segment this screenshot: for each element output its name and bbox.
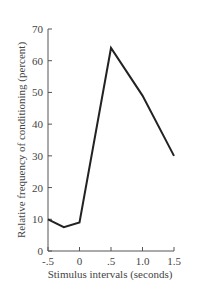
- y-tick-label: 50: [32, 86, 44, 98]
- y-tick-label: 10: [32, 213, 44, 225]
- ticks: 010203040506070-.50.51.01.5: [32, 23, 181, 267]
- y-tick-label: 30: [32, 150, 44, 162]
- y-tick-label: 60: [32, 55, 44, 67]
- axes: [48, 29, 174, 251]
- line-chart: 010203040506070-.50.51.01.5 Stimulus int…: [0, 0, 210, 293]
- y-tick-label: 70: [32, 23, 44, 35]
- x-tick-label: .5: [107, 255, 116, 267]
- data-line: [48, 48, 174, 227]
- y-tick-label: 20: [32, 182, 44, 194]
- x-axis-label: Stimulus intervals (seconds): [48, 268, 173, 281]
- y-tick-label: 40: [32, 118, 44, 130]
- x-tick-label: 1.0: [136, 255, 150, 267]
- x-tick-label: 0: [77, 255, 83, 267]
- x-tick-label: 1.5: [167, 255, 181, 267]
- x-tick-label: -.5: [42, 255, 54, 267]
- y-axis-label: Relative frequency of conditioning (perc…: [15, 42, 28, 238]
